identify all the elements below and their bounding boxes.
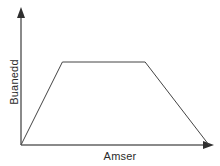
chart-canvas [0, 0, 220, 166]
speed-time-graph-figure: Buanedd Amser [0, 0, 220, 166]
y-axis-label: Buanedd [8, 47, 20, 117]
x-axis-label: Amser [60, 150, 180, 162]
plot-background [0, 0, 220, 166]
